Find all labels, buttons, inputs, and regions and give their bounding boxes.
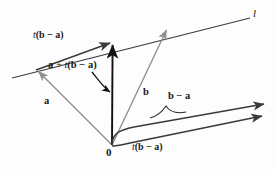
label-vector-a: a <box>44 96 49 107</box>
label-sum-plus: + <box>53 59 64 70</box>
label-sum-b-minus-a: (b − a) <box>67 59 96 70</box>
label-vector-b: b <box>143 87 149 98</box>
vector-b-minus-a-arrow <box>112 104 264 145</box>
label-t-b-minus-a-upper: t(b − a) <box>33 30 64 40</box>
callout-arrow <box>92 72 110 92</box>
vector-b-arrow <box>112 30 167 145</box>
label-t-b-minus-a-lower: t(b − a) <box>132 142 163 152</box>
label-b-minus-a: b − a <box>168 91 190 102</box>
label-a-plus-t-b-minus-a: a + t(b − a) <box>48 60 97 71</box>
b-minus-a-brace <box>150 106 186 118</box>
label-line-l: l <box>253 8 256 19</box>
vector-line-diagram: t(b − a) a + t(b − a) a b b − a t(b − a)… <box>0 0 275 170</box>
vector-resultant-arrow <box>112 45 113 145</box>
label-b-minus-a-upper: (b − a) <box>36 29 64 40</box>
label-b-minus-a-lower: (b − a) <box>135 141 163 152</box>
label-origin: 0 <box>106 147 112 158</box>
